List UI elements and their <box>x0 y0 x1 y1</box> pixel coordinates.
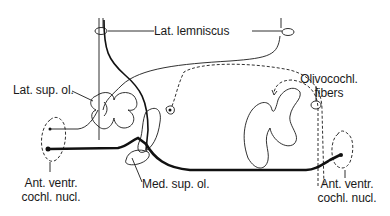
label-lat-lemniscus: Lat. lemniscus <box>154 24 229 38</box>
label-right-ant-ventr-cochl-nucl: Ant. ventr. cochl. nucl. <box>312 177 382 205</box>
label-med-sup-ol: Med. sup. ol. <box>142 177 209 191</box>
label-left-ant-line2: cochl. nucl. <box>16 190 86 204</box>
label-lat-sup-ol: Lat. sup. ol. <box>13 83 74 97</box>
med-sup-ol-leader <box>132 158 142 182</box>
olivocochlear-ellipse <box>311 101 321 109</box>
left-lso-inner-fold <box>104 102 107 116</box>
label-left-ant-line1: Ant. ventr. <box>16 176 86 190</box>
left-med-sup-olive <box>138 108 160 152</box>
left-thick-fiber <box>48 138 146 149</box>
label-right-ant-line2: cochl. nucl. <box>312 191 382 205</box>
left-ant-ventr-cochl-nucleus <box>41 117 65 161</box>
left-acn-thin-fiber <box>50 110 98 129</box>
right-ant-ventr-cochl-nucleus <box>332 131 353 168</box>
small-nucleus-dot <box>169 109 172 112</box>
lat-sup-ol-leader <box>72 91 93 101</box>
label-right-ant-line1: Ant. ventr. <box>312 177 382 191</box>
med-sup-ol-lobe <box>126 150 150 165</box>
right-acn-dot <box>339 153 343 157</box>
right-sup-olive <box>244 88 300 168</box>
label-olivocochl-line1: Olivocochl. <box>289 72 369 86</box>
label-olivocochl-fibers: Olivocochl. fibers <box>289 72 369 100</box>
right-thick-fiber <box>146 144 340 170</box>
left-lat-lemniscus <box>95 18 148 150</box>
label-left-ant-ventr-cochl-nucl: Ant. ventr. cochl. nucl. <box>16 176 86 204</box>
label-olivocochl-line2: fibers <box>289 86 369 100</box>
